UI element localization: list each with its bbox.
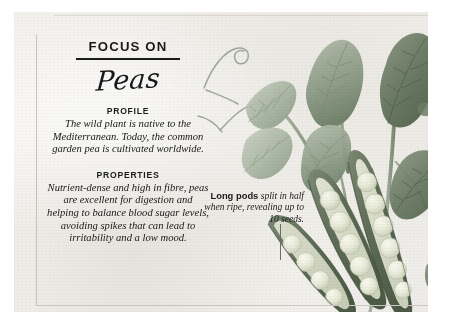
pea-flower [418,95,428,146]
pea-seed-group-middle [320,190,378,295]
left-border-rule [36,34,37,306]
pea-plant-illustration [190,12,428,312]
lower-sprig [425,252,428,312]
pea-pod-front [348,150,412,312]
top-rule [54,15,428,16]
pea-seed-group-back [283,235,343,306]
kicker-label: FOCUS ON [44,40,212,58]
paper-background: FOCUS ON Peas PROFILE The wild plant is … [14,12,428,312]
article-text-column: FOCUS ON Peas PROFILE The wild plant is … [44,40,212,245]
pea-pod-middle [308,170,386,310]
leaf-group-upper [246,33,428,132]
pea-pod-back [268,215,356,312]
pea-seed-group-front [357,172,411,298]
bottom-border-rule [36,305,428,306]
magazine-page: FOCUS ON Peas PROFILE The wild plant is … [0,0,458,326]
section-body-profile: The wild plant is native to the Mediterr… [44,118,212,156]
stem-group [286,58,426,312]
caption-leader-line [280,224,281,260]
section-body-properties: Nutrient-dense and high in fibre, peas a… [44,182,212,245]
page-title: Peas [43,60,213,99]
pod-caption: Long pods split in half when ripe, revea… [204,190,304,225]
kicker-underline [76,58,180,60]
section-heading-profile: PROFILE [44,106,212,116]
pod-caption-lead: Long pods [210,190,258,201]
section-heading-properties: PROPERTIES [44,170,212,180]
